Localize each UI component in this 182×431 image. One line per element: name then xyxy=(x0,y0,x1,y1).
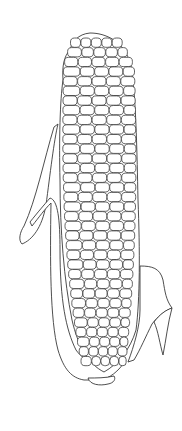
corn-kernel xyxy=(80,163,94,172)
corn-kernel xyxy=(83,260,96,269)
corn-kernel xyxy=(120,270,132,279)
corn-kernel xyxy=(78,77,92,86)
corn-kernel xyxy=(79,212,93,221)
corn-kernel xyxy=(81,202,95,211)
corn-kernel xyxy=(79,347,88,356)
corn-drawing xyxy=(0,0,182,431)
corn-kernel xyxy=(124,241,135,250)
corn-kernel xyxy=(78,96,92,105)
corn-kernel xyxy=(121,96,135,105)
corn-kernel xyxy=(95,86,109,95)
corn-kernel xyxy=(124,202,135,211)
corn-kernel xyxy=(91,38,101,47)
corn-kernel xyxy=(108,327,118,336)
corn-kernel xyxy=(110,260,123,269)
corn-kernel xyxy=(107,192,121,201)
corn-kernel xyxy=(66,231,80,240)
corn-kernel xyxy=(94,250,107,259)
corn-kernel xyxy=(85,308,96,317)
corn-kernel xyxy=(75,318,88,327)
corn-kernel xyxy=(99,318,110,327)
corn-kernel xyxy=(96,221,110,230)
corn-kernel xyxy=(107,231,121,240)
corn-kernel xyxy=(109,125,123,134)
corn-kernel xyxy=(110,318,121,327)
corn-kernel xyxy=(65,57,78,66)
corn-kernel xyxy=(81,356,91,365)
corn-kernel xyxy=(96,308,107,317)
corn-kernel xyxy=(121,77,135,86)
corn-kernel xyxy=(63,125,80,134)
corn-kernel xyxy=(122,299,131,308)
corn-kernel xyxy=(107,173,121,182)
corn-kernel xyxy=(80,67,94,76)
corn-kernel xyxy=(64,192,78,201)
corn-kernel xyxy=(92,135,106,144)
corn-kernel xyxy=(78,135,92,144)
corn-kernel xyxy=(100,337,110,346)
corn-kernel xyxy=(118,48,128,57)
corn-kernel xyxy=(108,347,117,356)
corn-kernel xyxy=(93,173,107,182)
corn-kernel xyxy=(63,67,80,76)
corn-kernel xyxy=(106,48,118,57)
corn-kernel xyxy=(107,154,121,163)
corn-kernel xyxy=(85,279,97,288)
corn-kernel xyxy=(63,106,80,115)
corn-kernel xyxy=(63,135,77,144)
corn-kernel xyxy=(98,299,110,308)
corn-kernel xyxy=(121,115,135,124)
corn-kernel xyxy=(63,96,77,105)
corn-kernel xyxy=(66,241,82,250)
corn-kernel xyxy=(78,192,92,201)
corn-kernel xyxy=(80,250,93,259)
corn-kernel xyxy=(123,260,133,269)
corn-kernel xyxy=(95,144,109,153)
corn-kernel xyxy=(112,38,122,47)
corn-illustration: Outline drawing of an ear of corn with k… xyxy=(0,0,182,431)
corn-kernel xyxy=(97,260,110,269)
corn-kernel xyxy=(78,57,91,66)
corn-kernel xyxy=(107,135,121,144)
corn-kernel xyxy=(120,289,132,298)
corn-kernel xyxy=(122,279,132,288)
corn-kernel xyxy=(63,163,80,172)
corn-kernel xyxy=(124,144,136,153)
corn-kernel xyxy=(92,356,101,365)
corn-kernel xyxy=(77,115,91,124)
corn-kernel xyxy=(64,183,81,192)
corn-kernel xyxy=(71,289,83,298)
corn-kernel xyxy=(78,173,92,182)
corn-kernel xyxy=(70,279,85,288)
corn-kernel xyxy=(76,327,86,336)
corn-kernel xyxy=(63,154,77,163)
corn-kernel xyxy=(97,279,109,288)
corn-kernel xyxy=(86,299,98,308)
corn-kernel xyxy=(92,154,106,163)
corn-kernel xyxy=(122,173,136,182)
corn-kernel xyxy=(119,356,126,365)
corn-kernel xyxy=(124,106,136,115)
corn-kernel xyxy=(110,356,119,365)
corn-kernel xyxy=(92,115,106,124)
corn-kernel xyxy=(110,241,123,250)
corn-kernel xyxy=(110,337,120,346)
corn-kernel xyxy=(110,299,122,308)
corn-kernel xyxy=(80,106,94,115)
corn-kernel xyxy=(89,347,98,356)
corn-kernel xyxy=(122,192,136,201)
corn-kernel xyxy=(110,279,122,288)
corn-kernel xyxy=(81,38,91,47)
corn-kernel xyxy=(92,57,105,66)
corn-kernel xyxy=(121,250,134,259)
corn-kernel xyxy=(80,86,94,95)
corn-kernel xyxy=(123,67,134,76)
corn-kernel xyxy=(93,212,107,221)
corn-kernel xyxy=(124,125,136,134)
corn-kernel xyxy=(121,318,130,327)
corn-kernel xyxy=(88,318,99,327)
corn-kernel xyxy=(107,250,120,259)
corn-kernel xyxy=(124,86,136,95)
corn-kernel xyxy=(65,221,81,230)
corn-kernel xyxy=(63,77,77,86)
